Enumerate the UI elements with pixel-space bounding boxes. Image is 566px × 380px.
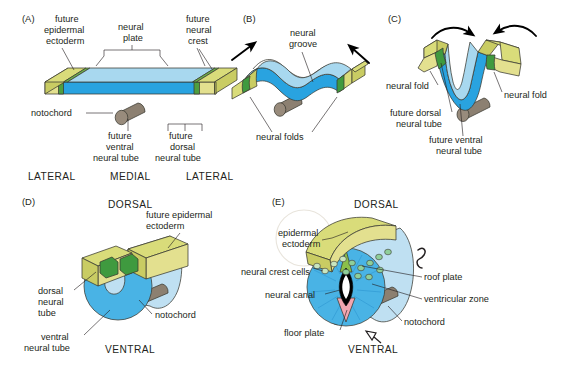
- label-epidermal-a: epidermal: [44, 25, 84, 35]
- label-neural-fold-right-c: neural fold: [504, 90, 547, 100]
- epidermal-ectoderm-front-right: [198, 82, 216, 94]
- label-fd2-c: neural tube: [396, 119, 442, 129]
- label-ectoderm-a: ectoderm: [46, 36, 85, 46]
- neural-crest-front-right: [194, 82, 200, 94]
- label-nt2-a: neural tube: [155, 153, 201, 163]
- label-crest-a: crest: [188, 36, 208, 46]
- label-vent-e: ventricular zone: [424, 294, 489, 304]
- neural-crest-right-c: [486, 55, 495, 70]
- label-crest-e: neural crest cells: [241, 267, 310, 277]
- label-dorsal-e: DORSAL: [354, 199, 399, 210]
- label-ventral-d: VENTRAL: [105, 344, 155, 355]
- neural-plate-front-face: [62, 82, 198, 94]
- label-dnt2-d: neural: [38, 297, 64, 307]
- panel-a-letter: (A): [22, 13, 35, 24]
- label-roof-e: roof plate: [424, 272, 462, 282]
- label-lateral-left-a: LATERAL: [28, 171, 76, 182]
- label-future3-a: future: [108, 131, 132, 141]
- label-canal-e: neural canal: [265, 290, 315, 300]
- label-groove-b: groove: [289, 39, 317, 49]
- label-neural-fold-left-c: neural fold: [386, 81, 429, 91]
- label-ventral-e: VENTRAL: [348, 344, 398, 355]
- label-medial-a: MEDIAL: [110, 171, 151, 182]
- label-fv2-c: neural tube: [436, 146, 482, 156]
- label-notochord-a: notochord: [31, 108, 72, 118]
- label-ventral-a: ventral: [106, 142, 134, 152]
- label-neural-a: neural: [118, 22, 144, 32]
- label-notochord-d: notochord: [155, 310, 196, 320]
- label-dnt1-d: dorsal: [38, 286, 63, 296]
- label-notochord-e: notochord: [404, 317, 445, 327]
- label-ee1-e: epidermal: [278, 228, 318, 238]
- label-fd1-c: future dorsal: [390, 108, 441, 118]
- label-fee2-d: ectoderm: [146, 221, 185, 231]
- label-nt1-a: neural tube: [93, 153, 139, 163]
- label-future-a: future: [55, 14, 79, 24]
- label-neural2-a: neural: [186, 25, 212, 35]
- label-neural-b: neural: [290, 28, 316, 38]
- label-vnt1-d: ventral: [41, 332, 69, 342]
- label-floor-e: floor plate: [284, 328, 324, 338]
- label-vnt2-d: neural tube: [24, 343, 70, 353]
- label-plate-a: plate: [123, 33, 143, 43]
- label-future4-a: future: [169, 131, 193, 141]
- figure-neural-tube-formation: (A) future epidermal ectoderm neural pla…: [0, 0, 566, 380]
- slab-right-edge: [215, 82, 217, 94]
- panel-b-letter: (B): [243, 13, 256, 24]
- label-dnt3-d: tube: [38, 308, 56, 318]
- label-lateral-right-a: LATERAL: [186, 171, 234, 182]
- label-fee1-d: future epidermal: [146, 210, 212, 220]
- label-ee2-e: ectoderm: [282, 239, 321, 249]
- panel-d-letter: (D): [22, 196, 35, 207]
- panel-c-letter: (C): [388, 13, 401, 24]
- label-future2-a: future: [186, 14, 210, 24]
- label-dorsal-d: DORSAL: [108, 199, 153, 210]
- panel-e-letter: (E): [272, 196, 285, 207]
- neural-plate-top: [68, 68, 216, 82]
- label-dorsal-a: dorsal: [170, 142, 195, 152]
- label-fv1-c: future ventral: [429, 135, 483, 145]
- label-neural-folds-b: neural folds: [256, 132, 304, 142]
